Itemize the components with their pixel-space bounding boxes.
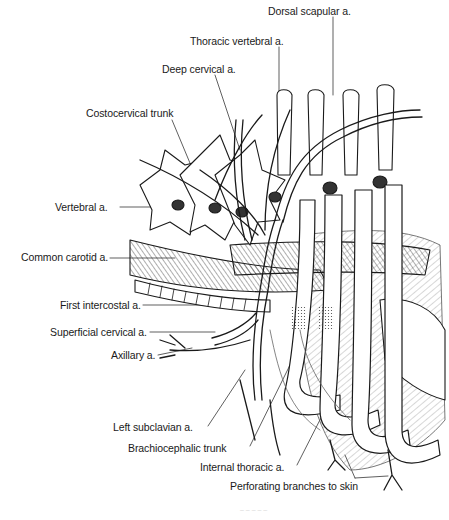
- label-axillary: Axillary a.: [111, 349, 155, 361]
- label-superficial-cervical: Superficial cervical a.: [50, 326, 147, 338]
- label-thoracic-vertebral: Thoracic vertebral a.: [190, 35, 284, 47]
- spinous-processes: [277, 85, 394, 175]
- anatomy-figure: Dorsal scapular a. Thoracic vertebral a.…: [0, 0, 449, 520]
- figure-caption: – – – – –: [240, 506, 267, 513]
- label-vertebral: Vertebral a.: [55, 201, 108, 213]
- label-brachiocephalic-trunk: Brachiocephalic trunk: [128, 442, 226, 454]
- label-deep-cervical: Deep cervical a.: [162, 63, 236, 75]
- label-common-carotid: Common carotid a.: [21, 251, 108, 263]
- label-perforating-branches: Perforating branches to skin: [230, 480, 358, 492]
- label-left-subclavian: Left subclavian a.: [113, 421, 193, 433]
- label-internal-thoracic: Internal thoracic a.: [200, 461, 284, 473]
- label-first-intercostal: First intercostal a.: [60, 299, 141, 311]
- label-dorsal-scapular: Dorsal scapular a.: [268, 5, 351, 17]
- label-costocervical-trunk: Costocervical trunk: [86, 107, 173, 119]
